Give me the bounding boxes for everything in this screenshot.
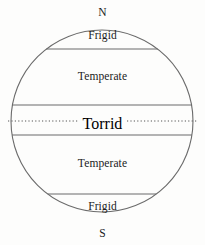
zone-label-torrid-wrapper: Torrid [0,115,205,133]
zone-label-torrid: Torrid [79,115,127,133]
climate-zones-diagram: N S Frigid Temperate Torrid Temperate Fr… [0,0,205,245]
zone-label-north-frigid: Frigid [0,30,205,42]
zone-label-south-temperate: Temperate [0,158,205,170]
south-pole-label: S [0,228,205,240]
zone-label-north-temperate: Temperate [0,71,205,83]
zone-label-south-frigid: Frigid [0,201,205,213]
north-pole-label: N [0,7,205,19]
